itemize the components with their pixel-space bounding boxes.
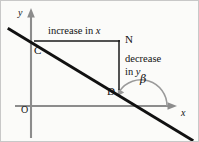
origin-label: O xyxy=(21,105,28,116)
increase-in-x-label: increase in x xyxy=(48,25,100,36)
point-label-c: C xyxy=(34,45,41,57)
y-axis-arrowhead-icon xyxy=(27,8,35,18)
decrease-in-y-line2: in y xyxy=(125,66,140,77)
coordinate-geometry-figure: y x O C N D increase in x decrease in y … xyxy=(0,0,199,142)
increase-in-x-text: increase in xyxy=(48,25,96,36)
increase-in-x-variable: x xyxy=(96,25,101,36)
point-label-n: N xyxy=(125,34,133,46)
diagram-canvas xyxy=(1,1,199,142)
x-axis-arrowhead-icon xyxy=(168,102,178,110)
x-axis xyxy=(15,102,177,110)
construction-triangle xyxy=(34,40,120,90)
decrease-in-y-text: in xyxy=(125,66,136,77)
point-label-d: D xyxy=(107,86,115,98)
y-axis-label: y xyxy=(18,8,22,19)
angle-beta-label: β xyxy=(140,74,146,86)
decrease-in-y-line1: decrease xyxy=(125,53,161,64)
x-axis-label: x xyxy=(181,108,185,119)
y-axis xyxy=(27,8,35,138)
